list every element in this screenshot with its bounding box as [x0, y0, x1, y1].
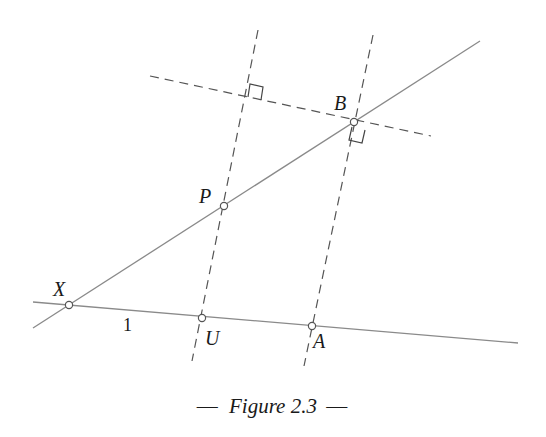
line-XA [33, 302, 518, 343]
label-U: U [205, 327, 221, 349]
segment-label-XU-length: 1 [123, 315, 132, 335]
label-P: P [198, 185, 211, 207]
line-XB [33, 41, 480, 328]
label-B: B [334, 92, 346, 114]
point-U [198, 314, 205, 321]
geometry-figure: XUAPB 1 — Figure 2.3 — [0, 0, 546, 437]
solid-lines [33, 41, 518, 343]
segment-labels: 1 [123, 315, 132, 335]
label-X: X [52, 278, 66, 300]
right-angle-top-icon [248, 84, 263, 100]
figure-caption: — Figure 2.3 — [196, 394, 348, 418]
point-A [308, 322, 315, 329]
caption-dash-left: — [196, 394, 219, 418]
point-B [350, 118, 357, 125]
points [65, 118, 357, 329]
right-angle-B-icon [349, 127, 365, 143]
perpendicular-B [150, 76, 431, 136]
right-angle-markers [248, 84, 365, 143]
point-X [65, 301, 72, 308]
caption-dash-right: — [325, 394, 348, 418]
label-A: A [311, 330, 326, 352]
line-AB [304, 35, 373, 366]
point-P [220, 202, 227, 209]
caption-text: Figure 2.3 [228, 394, 317, 418]
